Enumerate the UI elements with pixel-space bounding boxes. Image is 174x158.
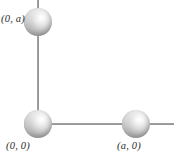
coordinate-diagram: (0, a) (0, 0) (a, 0) <box>0 0 174 158</box>
point-label-0-a: (0, a) <box>1 13 25 24</box>
x-axis-line <box>37 123 174 125</box>
sphere-at-origin <box>24 110 52 138</box>
sphere-at-a-0 <box>122 110 150 138</box>
point-label-0-0: (0, 0) <box>6 140 30 151</box>
sphere-at-0-a <box>24 8 52 36</box>
point-label-a-0: (a, 0) <box>117 140 141 151</box>
